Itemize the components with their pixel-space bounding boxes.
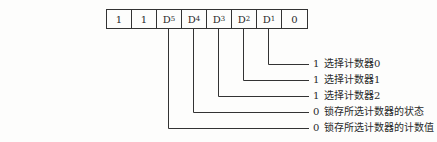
annotation-d1: 1 选择计数器0 [313,58,380,70]
annotation-text: 选择计数器2 [324,90,380,102]
annotation-d3: 1 选择计数器2 [313,90,380,102]
annotation-value: 1 [313,58,319,70]
annotation-d2: 1 选择计数器1 [313,74,380,86]
annotation-text: 选择计数器0 [324,58,380,70]
connector-d5 [169,29,310,129]
connector-d4 [194,29,310,113]
connector-d3 [219,29,310,97]
annotation-text: 选择计数器1 [324,74,380,86]
annotation-value: 1 [313,90,319,102]
connector-lines [0,0,437,142]
annotation-text: 锁存所选计数器的计数值 [324,122,434,134]
annotation-d5: 0 锁存所选计数器的计数值 [313,122,434,134]
annotation-text: 锁存所选计数器的状态 [324,106,424,118]
annotation-value: 0 [313,106,319,118]
connector-d1 [269,29,310,65]
connector-d2 [244,29,310,81]
annotation-value: 0 [313,122,319,134]
annotation-d4: 0 锁存所选计数器的状态 [313,106,424,118]
annotation-value: 1 [313,74,319,86]
